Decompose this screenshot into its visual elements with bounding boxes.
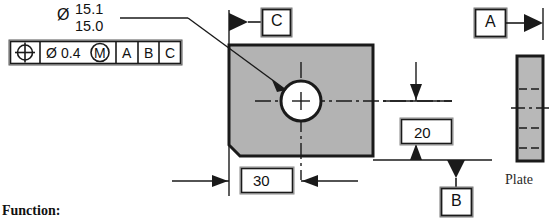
dim20-arrow-lower — [410, 144, 422, 160]
hole-upper-limit: 15.1 — [75, 2, 103, 17]
plate-view-label: Plate — [505, 172, 533, 188]
datum-c-label: C — [271, 12, 283, 30]
fcf-datum-secondary: B — [144, 45, 153, 61]
plate-side-view — [511, 56, 549, 161]
fcf-datum-tertiary: C — [165, 45, 175, 61]
fcf-material-modifier: M — [94, 45, 106, 61]
diameter-symbol: Ø — [57, 6, 69, 24]
dimension-30-value: 30 — [253, 172, 270, 189]
technical-drawing-page: Ø 15.1 15.0 Ø 0.4 M A B C C A B 30 20 Pl… — [0, 0, 552, 224]
datum-a-label: A — [485, 13, 496, 31]
datum-c-triangle — [229, 13, 248, 31]
fcf-diameter-symbol: Ø — [46, 45, 57, 61]
fcf-tolerance-value: 0.4 — [61, 45, 80, 61]
dimension-20-value: 20 — [414, 124, 431, 141]
datum-b-triangle — [447, 160, 465, 178]
datum-b-label: B — [451, 192, 462, 210]
dim30-arrow-right — [302, 175, 318, 187]
datum-b-symbol — [373, 160, 492, 217]
fcf-datum-primary: A — [122, 45, 131, 61]
hole-lower-limit: 15.0 — [75, 19, 103, 34]
datum-a-triangle — [524, 14, 543, 32]
dim20-arrow-upper — [410, 84, 422, 100]
vertical-dimension-20 — [373, 62, 453, 160]
function-label: Function: — [2, 203, 60, 219]
dim30-arrow-left — [212, 175, 228, 187]
